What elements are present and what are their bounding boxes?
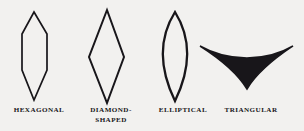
elliptical-leaf-shape-icon xyxy=(163,12,187,101)
triangular-leaf-shape-icon xyxy=(200,46,293,89)
diamond-shaped-leaf-shape-icon xyxy=(89,10,124,103)
shape-figure: HEXAGONAL DIAMOND- SHAPED ELLIPTICAL TRI… xyxy=(0,0,304,131)
hexagonal-leaf-shape-icon xyxy=(22,12,47,100)
shape-label-hexagonal: HEXAGONAL xyxy=(0,106,78,116)
shape-label-diamond-shaped: DIAMOND- SHAPED xyxy=(72,106,150,125)
shape-label-triangular: TRIANGULAR xyxy=(212,106,290,116)
shape-label-elliptical: ELLIPTICAL xyxy=(144,106,222,116)
